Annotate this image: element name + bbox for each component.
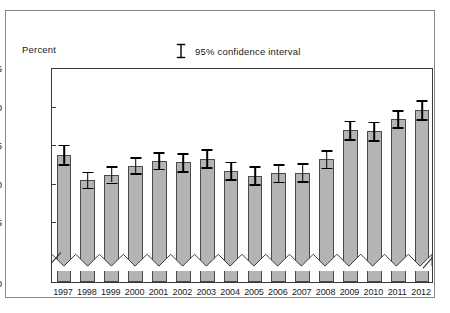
bar-group — [171, 67, 195, 282]
bar — [152, 161, 167, 282]
y-tick-label: 55 — [0, 63, 2, 74]
error-bar-cap-upper — [130, 157, 141, 159]
error-bar-marker-icon — [176, 43, 186, 59]
x-tick-label: 2009 — [340, 287, 360, 297]
error-bar-cap-upper — [154, 152, 165, 154]
bar — [104, 175, 119, 282]
bar-group — [100, 67, 124, 282]
bar-group — [291, 67, 315, 282]
error-bar-cap-lower — [106, 183, 117, 185]
error-bar-line — [87, 172, 89, 188]
bar — [319, 159, 334, 282]
bar-group — [76, 67, 100, 282]
bar — [248, 176, 263, 282]
bar — [128, 166, 143, 282]
error-bar-cap-upper — [417, 100, 428, 102]
x-tick-label: 2002 — [173, 287, 193, 297]
x-tick-label: 2008 — [316, 287, 336, 297]
bar-group — [410, 67, 434, 282]
x-tick-label: 2003 — [196, 287, 216, 297]
figure-frame: Percent 95% confidence interval 35404550… — [5, 10, 435, 298]
x-tick-label: 2006 — [268, 287, 288, 297]
bar — [295, 173, 310, 283]
error-bar-line — [397, 110, 399, 127]
error-bar-cap-lower — [393, 127, 404, 129]
error-bar-line — [183, 153, 185, 171]
error-bar-line — [159, 152, 161, 168]
error-bar-cap-upper — [82, 172, 93, 174]
x-tick-label: 1998 — [77, 287, 97, 297]
bar-group — [315, 67, 339, 282]
error-bar-line — [374, 122, 376, 140]
x-tick-label: 2007 — [292, 287, 312, 297]
error-bar-line — [135, 157, 137, 173]
error-bar-cap-upper — [202, 149, 213, 151]
bar-group — [243, 67, 267, 282]
y-tick-label: 45 — [0, 140, 2, 151]
bar-group — [267, 67, 291, 282]
error-bar-line — [111, 166, 113, 182]
error-bar-cap-upper — [106, 166, 117, 168]
x-tick-label: 2001 — [149, 287, 169, 297]
bar-series — [52, 69, 432, 282]
error-bar-cap-lower — [345, 139, 356, 141]
y-tick-label: 40 — [0, 178, 2, 189]
error-bar-cap-lower — [130, 173, 141, 175]
error-bar-cap-lower — [417, 119, 428, 121]
error-bar-line — [206, 149, 208, 167]
error-bar-cap-upper — [58, 145, 69, 147]
error-bar-cap-lower — [82, 188, 93, 190]
plot-area — [51, 68, 433, 283]
error-bar-cap-upper — [249, 166, 260, 168]
bar-group — [52, 67, 76, 282]
y-axis-label: Percent — [22, 44, 56, 55]
bar — [271, 173, 286, 282]
error-bar-cap-upper — [297, 163, 308, 165]
bar — [57, 155, 72, 282]
error-bar-line — [63, 145, 65, 164]
error-bar-cap-lower — [154, 169, 165, 171]
error-bar-cap-upper — [345, 121, 356, 123]
x-tick-label: 2012 — [411, 287, 431, 297]
error-bar-line — [421, 100, 423, 119]
error-bar-cap-upper — [273, 164, 284, 166]
bar — [200, 159, 215, 282]
y-tick-mark — [51, 222, 56, 223]
legend-label: 95% confidence interval — [195, 46, 300, 57]
error-bar-line — [254, 166, 256, 184]
bar-group — [219, 67, 243, 282]
legend: 95% confidence interval — [176, 43, 300, 59]
x-tick-label: 2005 — [244, 287, 264, 297]
bar-group — [339, 67, 363, 282]
y-tick-mark — [51, 68, 56, 69]
bar — [80, 180, 95, 282]
y-tick-label: 50 — [0, 101, 2, 112]
y-tick-label: 35 — [0, 217, 2, 228]
error-bar-cap-upper — [178, 153, 189, 155]
error-bar-cap-lower — [369, 140, 380, 142]
error-bar-cap-lower — [249, 184, 260, 186]
bar-group — [386, 67, 410, 282]
bar — [415, 110, 430, 282]
bar — [224, 171, 239, 282]
y-tick-mark — [51, 107, 56, 108]
error-bar-cap-upper — [369, 122, 380, 124]
x-tick-label: 2004 — [220, 287, 240, 297]
y-tick-mark — [51, 184, 56, 185]
error-bar-cap-upper — [321, 150, 332, 152]
error-bar-line — [278, 164, 280, 182]
bar — [343, 130, 358, 282]
error-bar-cap-lower — [321, 168, 332, 170]
error-bar-line — [350, 121, 352, 139]
bar-group — [148, 67, 172, 282]
error-bar-cap-upper — [393, 110, 404, 112]
bar-group — [195, 67, 219, 282]
x-tick-label: 2010 — [364, 287, 384, 297]
x-tick-label: 2000 — [125, 287, 145, 297]
error-bar-line — [230, 162, 232, 180]
error-bar-line — [326, 150, 328, 168]
y-tick-mark — [51, 145, 56, 146]
error-bar-cap-lower — [178, 171, 189, 173]
error-bar-cap-lower — [226, 179, 237, 181]
error-bar-cap-lower — [58, 164, 69, 166]
